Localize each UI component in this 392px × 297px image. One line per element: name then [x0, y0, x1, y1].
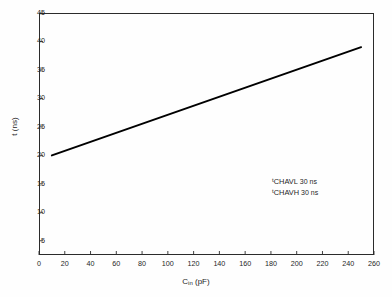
- x-axis-title-unit: (pF): [195, 277, 210, 286]
- y-tick-label: 25: [37, 123, 45, 130]
- x-tick-label: 160: [239, 260, 251, 267]
- annotation-value: 30 ns: [301, 189, 318, 196]
- x-tick-label: 260: [368, 260, 380, 267]
- y-tick-label: 45: [37, 9, 45, 16]
- y-axis-title: t (ns): [10, 97, 19, 157]
- x-tick-label: 180: [265, 260, 277, 267]
- x-tick-label: 140: [213, 260, 225, 267]
- x-tick-label: 240: [342, 260, 354, 267]
- annotation-line: tCHAVH30 ns: [272, 187, 318, 198]
- x-tick-label: 120: [188, 260, 200, 267]
- annotation-value: 30 ns: [300, 178, 317, 185]
- chart-figure: 020406080100120140160180200220240260 510…: [0, 0, 392, 297]
- annotation-line: tCHAVL30 ns: [272, 176, 318, 187]
- x-tick-label: 60: [112, 260, 120, 267]
- y-tick-label: 40: [37, 38, 45, 45]
- x-axis-ticks: [39, 251, 374, 255]
- x-tick-label: 200: [291, 260, 303, 267]
- x-tick-label: 220: [316, 260, 328, 267]
- data-series-group: [52, 47, 361, 155]
- y-tick-label: 15: [37, 180, 45, 187]
- y-tick-label: 30: [37, 95, 45, 102]
- y-tick-label: 10: [37, 209, 45, 216]
- x-tick-label: 20: [61, 260, 69, 267]
- annotation-subscript: CHAVH: [274, 188, 299, 197]
- annotation-subscript: CHAVL: [274, 177, 298, 186]
- y-tick-label: 5: [41, 237, 45, 244]
- plot-drawing-area: [0, 0, 392, 297]
- x-tick-label: 0: [37, 260, 41, 267]
- y-tick-label: 35: [37, 66, 45, 73]
- chart-annotation-block: tCHAVL30 nstCHAVH30 ns: [272, 176, 318, 198]
- x-axis-title-subscript: in: [188, 280, 193, 286]
- x-tick-label: 40: [87, 260, 95, 267]
- y-tick-label: 20: [37, 152, 45, 159]
- x-axis-title: Cin (pF): [0, 277, 392, 286]
- x-tick-label: 100: [162, 260, 174, 267]
- x-tick-label: 80: [138, 260, 146, 267]
